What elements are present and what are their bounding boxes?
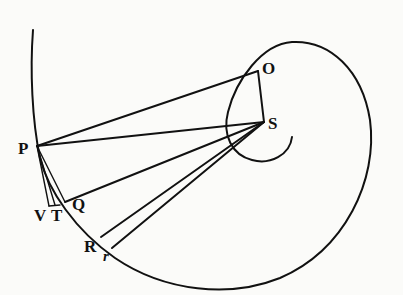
spiral-curve: [32, 30, 372, 289]
spiral-diagram: [0, 0, 403, 295]
label-P: P: [18, 140, 28, 157]
label-S: S: [268, 115, 277, 132]
segment-r-S: [112, 122, 264, 248]
segment-R-S: [101, 122, 264, 237]
label-T: T: [51, 207, 62, 224]
segment-O-S: [258, 71, 264, 122]
label-V: V: [34, 207, 46, 224]
label-R: R: [84, 238, 96, 255]
segment-P-V: [37, 146, 49, 206]
segment-Q-S: [65, 122, 264, 202]
label-r: r: [103, 249, 109, 264]
label-Q: Q: [72, 196, 85, 213]
label-O: O: [262, 60, 275, 77]
